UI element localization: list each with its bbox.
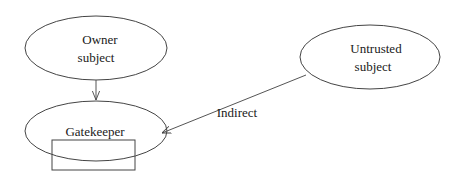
untrusted-subject-label-line1: Untrusted [350,41,402,56]
owner-subject-node: Owner subject [25,16,167,80]
gatekeeper-label: Gatekeeper [65,124,125,139]
gatekeeper-diagram: Owner subject Untrusted subject Gatekeep… [0,0,454,187]
owner-subject-label-line2: subject [78,50,115,65]
gatekeeper-node: Gatekeeper [25,101,167,170]
untrusted-subject-node: Untrusted subject [300,25,440,89]
edge-indirect-label: Indirect [217,105,258,120]
untrusted-subject-label-line2: subject [355,59,392,74]
edge-untrusted-to-gatekeeper [162,75,306,133]
owner-subject-label-line1: Owner [82,32,118,47]
gatekeeper-inner-box [52,140,135,170]
